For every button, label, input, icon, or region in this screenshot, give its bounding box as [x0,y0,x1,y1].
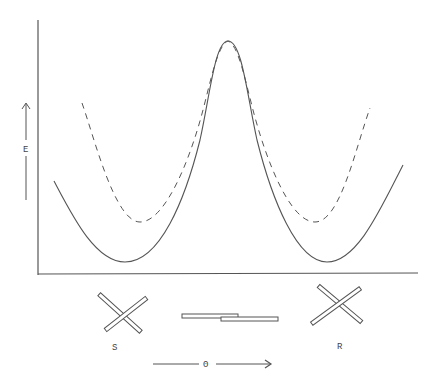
s-label: S [112,343,117,353]
dashed-energy-curve [82,41,370,222]
s-conformer-icon [98,293,148,333]
r-label: R [337,342,343,352]
solid-energy-curve [54,41,403,262]
energy-diagram: E S R Θ [0,0,437,389]
r-conformer-icon [311,284,363,325]
angle-axis-arrow-icon [153,360,271,368]
transition-conformer-icon [182,314,278,321]
x-axis [38,273,418,274]
angle-label: Θ [203,360,208,370]
energy-label: E [23,145,28,155]
